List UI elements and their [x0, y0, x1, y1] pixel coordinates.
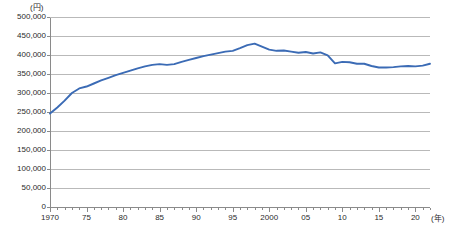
x-tick-label: 10: [338, 214, 347, 222]
x-tick-label: 1970: [41, 214, 59, 222]
x-tick-label: 90: [192, 214, 201, 222]
x-tick-label: 80: [119, 214, 128, 222]
x-tick-label: 05: [301, 214, 310, 222]
x-tick-label: 75: [82, 214, 91, 222]
x-tick-label: 85: [155, 214, 164, 222]
x-tick-label: 15: [374, 214, 383, 222]
x-tick-label: 2000: [260, 214, 278, 222]
line-chart: (円) (年) 050,000100,000150,000200,000250,…: [0, 0, 452, 238]
x-axis-tick-labels: 19707580859095200005101520: [0, 0, 452, 238]
x-tick-label: 95: [228, 214, 237, 222]
x-tick-label: 20: [411, 214, 420, 222]
